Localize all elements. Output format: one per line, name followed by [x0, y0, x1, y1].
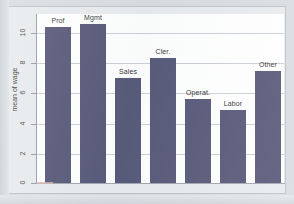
y-tick-4 [31, 124, 36, 125]
bar-other[interactable] [255, 71, 281, 183]
bar-operat[interactable] [185, 99, 211, 183]
y-tick-label-10: 10 [19, 26, 26, 40]
y-axis-title: mean of wage [11, 55, 18, 125]
bar-label-cler: Cler. [147, 48, 179, 55]
bar-label-operat: Operat. [182, 89, 214, 96]
bar-label-prof: Prof [42, 17, 74, 24]
y-axis-line [36, 14, 37, 184]
x-axis-line [36, 183, 285, 184]
plot-area: Prof Mgmt Sales Cler. Operat. Labor Othe… [37, 14, 284, 183]
y-tick-10 [31, 33, 36, 34]
y-tick-8 [31, 63, 36, 64]
y-tick-label-6: 6 [19, 86, 26, 100]
bar-mgmt[interactable] [80, 24, 106, 183]
y-tick-label-4: 4 [19, 117, 26, 131]
bar-sales[interactable] [115, 78, 141, 183]
y-tick-6 [31, 93, 36, 94]
bar-chart: Prof Mgmt Sales Cler. Operat. Labor Othe… [0, 0, 294, 204]
bar-label-labor: Labor [217, 100, 249, 107]
bar-cler[interactable] [150, 58, 176, 183]
bar-label-mgmt: Mgmt [77, 14, 109, 21]
figure-screenshot: Prof Mgmt Sales Cler. Operat. Labor Othe… [0, 0, 294, 204]
bar-label-other: Other [252, 61, 284, 68]
bar-labor[interactable] [220, 110, 246, 183]
y-tick-label-0: 0 [19, 176, 26, 190]
gridline-10 [37, 33, 284, 34]
x-axis-origin-marker [37, 182, 53, 184]
y-tick-label-2: 2 [19, 147, 26, 161]
y-tick-label-8: 8 [19, 56, 26, 70]
y-tick-2 [31, 154, 36, 155]
bar-prof[interactable] [45, 27, 71, 183]
bar-label-sales: Sales [112, 68, 144, 75]
y-tick-0 [31, 183, 36, 184]
